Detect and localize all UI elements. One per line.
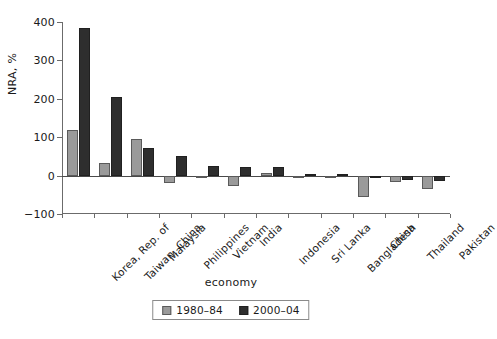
bar-group bbox=[127, 22, 159, 214]
bar bbox=[402, 176, 413, 180]
x-tick-mark bbox=[256, 214, 257, 218]
bar-group bbox=[159, 22, 191, 214]
chart-legend: 1980–842000–04 bbox=[152, 300, 309, 320]
bar bbox=[131, 139, 142, 176]
bar bbox=[273, 167, 284, 175]
x-tick-mark bbox=[288, 214, 289, 218]
y-tick-label: −100 bbox=[24, 208, 55, 221]
bar bbox=[240, 167, 251, 175]
bar-group bbox=[321, 22, 353, 214]
bar bbox=[208, 166, 219, 175]
bar bbox=[325, 176, 336, 178]
legend-label: 2000–04 bbox=[253, 304, 300, 316]
bar bbox=[337, 174, 348, 176]
bar bbox=[228, 176, 239, 187]
x-tick-mark bbox=[191, 214, 192, 218]
bar bbox=[99, 163, 110, 175]
bar bbox=[390, 176, 401, 183]
legend-entry: 1980–84 bbox=[162, 304, 223, 316]
bar bbox=[305, 174, 316, 176]
bar-group bbox=[288, 22, 320, 214]
dark-square-icon bbox=[239, 306, 248, 315]
y-axis-title: NRA, % bbox=[6, 53, 19, 95]
x-category-label: China bbox=[387, 221, 417, 251]
bar bbox=[143, 148, 154, 176]
bar-group bbox=[191, 22, 223, 214]
y-tick-label: 100 bbox=[33, 131, 55, 144]
bar bbox=[422, 176, 433, 189]
y-tick-label: 200 bbox=[33, 92, 55, 105]
legend-label: 1980–84 bbox=[176, 304, 223, 316]
x-tick-mark bbox=[127, 214, 128, 218]
x-tick-mark bbox=[159, 214, 160, 218]
y-tick-label: 0 bbox=[48, 169, 55, 182]
x-tick-mark bbox=[62, 214, 63, 218]
bar-group bbox=[418, 22, 450, 214]
bar bbox=[261, 173, 272, 176]
gray-square-icon bbox=[162, 306, 171, 315]
bar-group bbox=[224, 22, 256, 214]
x-tick-mark bbox=[418, 214, 419, 218]
plot-area: −1000100200300400 bbox=[62, 22, 450, 214]
x-tick-mark bbox=[353, 214, 354, 218]
x-axis-title: economy bbox=[0, 276, 462, 289]
legend-entry: 2000–04 bbox=[239, 304, 300, 316]
y-tick-label: 400 bbox=[33, 16, 55, 29]
bar bbox=[111, 97, 122, 176]
y-tick-label: 300 bbox=[33, 54, 55, 67]
bar bbox=[164, 176, 175, 183]
bar bbox=[176, 156, 187, 176]
x-tick-mark bbox=[385, 214, 386, 218]
bar bbox=[434, 176, 445, 181]
bar-group bbox=[353, 22, 385, 214]
x-tick-mark bbox=[321, 214, 322, 218]
bar bbox=[67, 130, 78, 176]
x-tick-mark bbox=[450, 214, 451, 218]
x-tick-mark bbox=[94, 214, 95, 218]
bar bbox=[293, 176, 304, 178]
bar bbox=[370, 176, 381, 178]
bar-group bbox=[256, 22, 288, 214]
bar-group bbox=[94, 22, 126, 214]
x-tick-mark bbox=[224, 214, 225, 218]
bar bbox=[196, 176, 207, 178]
bar bbox=[79, 28, 90, 176]
bar bbox=[358, 176, 369, 197]
bar-group bbox=[385, 22, 417, 214]
bar-group bbox=[62, 22, 94, 214]
